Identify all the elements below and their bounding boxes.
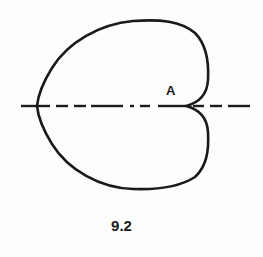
point-a-label: A bbox=[166, 84, 175, 97]
cardioid-curve bbox=[37, 20, 208, 189]
figure-caption: 9.2 bbox=[0, 218, 243, 233]
